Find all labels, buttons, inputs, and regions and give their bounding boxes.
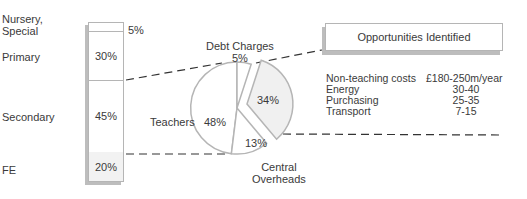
pie-slice-teachers xyxy=(191,62,237,154)
pie-value-debt: 5% xyxy=(232,52,248,64)
pie-value-teachers: 48% xyxy=(204,116,226,128)
pie-value-exploded: 34% xyxy=(257,94,279,106)
opportunities-table: Non-teaching costs £180-250m/year Energy… xyxy=(326,73,506,117)
pie-value-central: 13% xyxy=(245,137,267,149)
pie-label-debt-charges: Debt Charges xyxy=(206,40,274,52)
pie-label-central-overheads: Central Overheads xyxy=(252,161,306,185)
pie-label-teachers: Teachers xyxy=(150,116,195,128)
opportunities-title: Opportunities Identified xyxy=(357,31,470,43)
opportunities-title-box: Opportunities Identified xyxy=(325,23,503,51)
opportunity-row: Transport 7-15 xyxy=(326,106,506,117)
connector-bottom-right xyxy=(283,134,500,135)
